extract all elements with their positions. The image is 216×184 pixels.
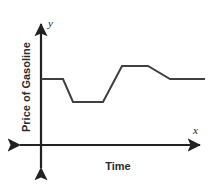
x-axis-symbol-label: x [192,124,198,136]
price-curve [41,66,205,102]
axes-group [20,24,200,168]
x-axis-title: Time [105,160,130,172]
gasoline-price-graph-figure: y x Price of Gasoline Time [0,0,216,184]
y-axis-title: Price of Gasoline [20,42,32,132]
y-axis-symbol-label: y [47,17,53,29]
coordinate-plot: y x Price of Gasoline Time [0,0,216,184]
